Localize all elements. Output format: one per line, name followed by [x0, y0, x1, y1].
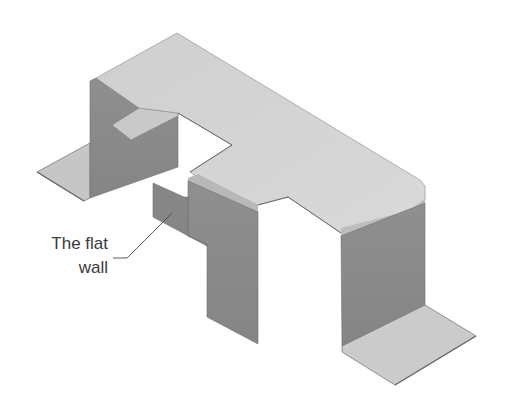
- callout-line-1: The flat: [28, 232, 108, 256]
- sheet-metal-diagram: The flat wall: [0, 0, 508, 402]
- left-flange: [37, 143, 90, 201]
- callout-label: The flat wall: [28, 232, 108, 280]
- callout-line-2: wall: [28, 256, 108, 280]
- part-drawing: [0, 0, 508, 402]
